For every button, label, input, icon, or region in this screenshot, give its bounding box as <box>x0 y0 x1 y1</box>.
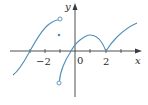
y-axis-arrow-icon <box>73 3 78 10</box>
filled-point <box>58 34 61 37</box>
x-axis-arrow-icon <box>135 49 142 54</box>
y-axis-label: y <box>64 1 71 12</box>
right-branch-curve <box>106 23 137 51</box>
open-endpoint-bottom <box>57 81 61 85</box>
x-tick-label-0: 0 <box>77 55 83 66</box>
x-axis-label: x <box>135 55 141 66</box>
function-graph: −2 0 2 x y <box>0 0 148 105</box>
open-endpoint-top <box>58 17 62 21</box>
x-tick-label-neg2: −2 <box>36 56 51 67</box>
x-tick-label-2: 2 <box>103 56 109 67</box>
